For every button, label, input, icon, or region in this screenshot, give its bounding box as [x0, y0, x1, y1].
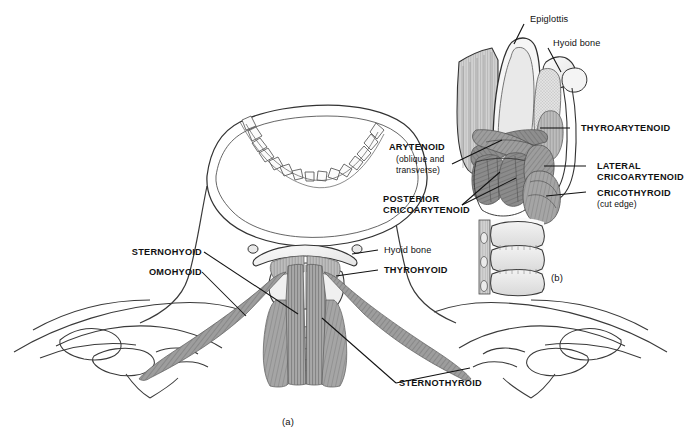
- label-thyroarytenoid: THYROARYTENOID: [581, 123, 670, 135]
- label-hyoid-bone-b: Hyoid bone: [553, 38, 600, 50]
- label-arytenoid: ARYTENOID: [335, 142, 445, 154]
- label-cricothyroid-sub: (cut edge): [597, 199, 637, 211]
- label-lateral: LATERAL: [597, 161, 641, 173]
- label-lateral-cricoarytenoid: CRICOARYTENOID: [597, 172, 684, 184]
- label-arytenoid-sub-1: (oblique and: [396, 154, 445, 166]
- left-shoulder-girdle: [14, 300, 247, 398]
- label-cricothyroid: CRICOTHYROID: [597, 188, 671, 200]
- label-arytenoid-sub-2: transverse): [396, 165, 440, 177]
- panel-b-artwork: [452, 24, 587, 296]
- label-hyoid-bone-a: Hyoid bone: [384, 245, 431, 257]
- panel-b-caption: (b): [551, 272, 563, 284]
- label-posterior-cricoarytenoid: CRICOARYTENOID: [383, 205, 470, 217]
- panel-a-caption: (a): [282, 416, 294, 428]
- mandible: [207, 105, 427, 246]
- label-sternothyroid: STERNOTHYROID: [399, 378, 482, 390]
- label-posterior: POSTERIOR: [383, 194, 439, 206]
- label-omohyoid: OMOHYOID: [90, 267, 202, 279]
- label-thyrohyoid: THYROHYOID: [384, 265, 448, 277]
- label-epiglottis: Epiglottis: [530, 14, 568, 26]
- label-sternohyoid: STERNOHYOID: [90, 247, 202, 259]
- trachea-b: [479, 218, 544, 296]
- cricothyroid-muscle: [523, 171, 561, 224]
